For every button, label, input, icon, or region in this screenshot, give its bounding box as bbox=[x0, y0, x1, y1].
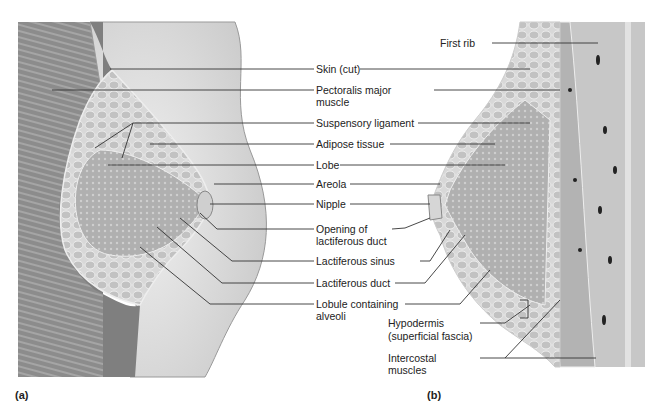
label-areola: Areola bbox=[316, 178, 346, 190]
label-pectoralis-major: Pectoralis major bbox=[316, 84, 391, 96]
label-opening-lactiferous-duct-cont: lactiferous duct bbox=[316, 235, 387, 247]
label-lobe: Lobe bbox=[316, 159, 339, 171]
label-suspensory-ligament: Suspensory ligament bbox=[316, 117, 414, 129]
panel-a-art bbox=[18, 22, 266, 377]
label-opening-lactiferous-duct: Opening of bbox=[316, 223, 367, 235]
panel-label-a: (a) bbox=[15, 389, 28, 401]
label-lobule-cont: alveoli bbox=[316, 310, 346, 322]
panel-b-art bbox=[428, 22, 645, 367]
label-intercostal-muscles: Intercostal bbox=[388, 352, 436, 364]
label-pectoralis-major-cont: muscle bbox=[316, 96, 349, 108]
label-intercostal-muscles-cont: muscles bbox=[388, 364, 427, 376]
label-hypodermis: Hypodermis bbox=[388, 317, 444, 329]
label-nipple: Nipple bbox=[316, 198, 346, 210]
label-hypodermis-cont: (superficial fascia) bbox=[388, 330, 473, 342]
label-lactiferous-duct: Lactiferous duct bbox=[316, 277, 390, 289]
panel-label-b: (b) bbox=[427, 389, 441, 401]
label-first-rib: First rib bbox=[440, 37, 475, 49]
label-lactiferous-sinus: Lactiferous sinus bbox=[316, 255, 395, 267]
label-adipose-tissue: Adipose tissue bbox=[316, 138, 384, 150]
label-lobule: Lobule containing bbox=[316, 298, 398, 310]
label-skin-cut: Skin (cut) bbox=[316, 63, 360, 75]
